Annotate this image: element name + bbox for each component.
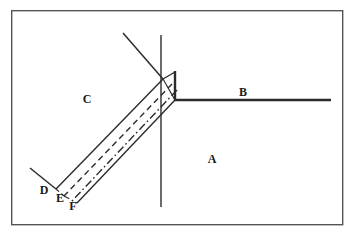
label-A: A xyxy=(208,152,217,166)
figure-background xyxy=(0,0,354,237)
figure-container: A B C D E F xyxy=(0,0,354,237)
label-B: B xyxy=(239,85,247,99)
label-D: D xyxy=(40,183,49,197)
label-C: C xyxy=(83,92,92,106)
line-diagram: A B C D E F xyxy=(0,0,354,237)
label-E: E xyxy=(56,191,64,205)
label-F: F xyxy=(69,199,76,213)
